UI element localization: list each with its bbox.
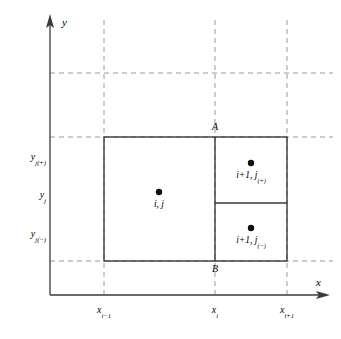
cell-label-sub: (+): [257, 177, 265, 184]
point-label-a: A: [212, 122, 218, 132]
x-axis-label: x: [316, 277, 321, 288]
cell-label-sub: (−): [257, 242, 265, 249]
x-tick-label-i-minus-1: xi−1: [97, 305, 111, 315]
cell-label-main: i+1, j: [236, 170, 257, 180]
cell-label-main: i, j: [154, 199, 164, 209]
cell-label-upper-right: i+1, j(+): [236, 171, 266, 181]
x-tick-sub: i−1: [101, 312, 111, 319]
y-tick-sub: j(−): [35, 236, 46, 243]
y-tick-sub: j(+): [35, 159, 46, 166]
dot-center-cell: [156, 189, 162, 195]
point-label-b: B: [212, 264, 218, 274]
y-axis-label: y: [62, 17, 67, 28]
cell-label-lower-right: i+1, j(−): [236, 236, 266, 246]
cell-label-center: i, j: [154, 200, 164, 210]
y-tick-label-j: yj: [40, 190, 46, 200]
cell-label-main: i+1, j: [236, 235, 257, 245]
figure-canvas: y x xi−1 xi xi+1 yj(+) yj yj(−) i, j i+1…: [0, 0, 341, 339]
dot-lower-right-cell: [248, 225, 254, 231]
y-tick-label-j-plus: yj(+): [31, 152, 46, 162]
x-tick-label-i: xi: [212, 305, 218, 315]
diagram-svg: [0, 0, 341, 339]
x-tick-label-i-plus-1: xi+1: [280, 305, 294, 315]
dot-upper-right-cell: [248, 160, 254, 166]
y-tick-label-j-minus: yj(−): [31, 229, 46, 239]
x-tick-sub: i+1: [284, 312, 294, 319]
dashed-gridlines: [50, 20, 333, 295]
